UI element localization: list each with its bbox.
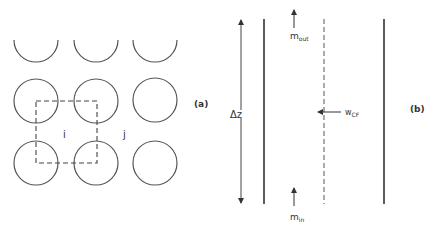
panel-a-label: (a) xyxy=(194,99,208,109)
rod-mid-3 xyxy=(133,78,177,122)
panel-b-label: (b) xyxy=(410,104,425,114)
mass-in-label: min xyxy=(290,212,304,223)
subchannel-diagram: i j (a) Δz mout min wCF (b) xyxy=(0,0,439,237)
rod-top-1 xyxy=(14,40,58,62)
rod-top-2 xyxy=(74,40,118,62)
crossflow-label: wCF xyxy=(345,108,360,118)
mass-out-label: mout xyxy=(290,31,309,42)
delta-z-label: Δz xyxy=(230,109,242,120)
rod-top-3 xyxy=(133,40,177,62)
cell-label-i: i xyxy=(63,129,66,140)
control-volume-dashed-square xyxy=(36,101,97,163)
rod-bot-3 xyxy=(133,141,177,185)
cell-label-j: j xyxy=(122,129,126,140)
